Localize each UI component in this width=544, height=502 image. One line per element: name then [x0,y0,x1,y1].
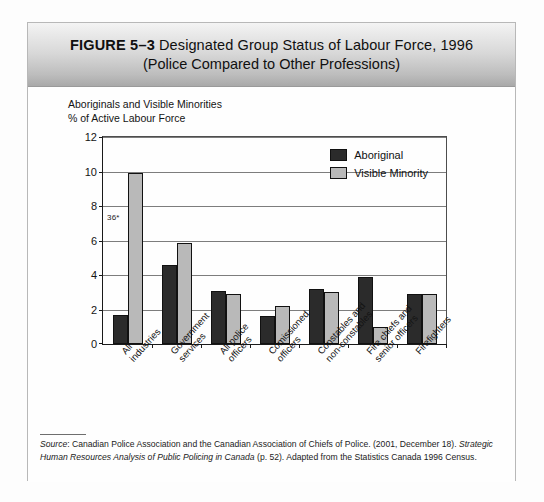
y-axis-caption: Aboriginals and Visible Minorities % of … [68,97,222,125]
x-axis-labels: AllindustriesGovernmentservicesAll polic… [102,345,447,435]
figure-box: FIGURE 5–3 Designated Group Status of La… [27,22,516,481]
figure-title-line-2: (Police Compared to Other Professions) [143,55,400,73]
bar-aboriginal [260,316,275,344]
chart-container: Aboriginals and Visible Minorities % of … [28,87,515,482]
source-text-1: : Canadian Police Association and the Ca… [67,439,459,449]
y-tick-label-0: 0 [91,338,97,350]
legend-item-visible-minority: Visible Minority [330,167,428,179]
y-tick-label-10: 10 [85,166,97,178]
bar-group [201,137,250,344]
figure-title-line-1: FIGURE 5–3 Designated Group Status of La… [70,36,473,54]
source-divider [40,434,86,435]
bar-group [152,137,201,344]
figure-page: FIGURE 5–3 Designated Group Status of La… [0,0,544,502]
bar-aboriginal [113,315,128,344]
y-tick-label-8: 8 [91,200,97,212]
y-tick-label-6: 6 [91,235,97,247]
legend-swatch-visible-minority [330,167,347,179]
figure-header-band: FIGURE 5–3 Designated Group Status of La… [28,23,515,87]
y-tick-label-12: 12 [85,131,97,143]
bar-aboriginal [211,291,226,344]
bar-group [103,137,152,344]
y-tick-label-4: 4 [91,269,97,281]
figure-number: FIGURE 5–3 [70,37,155,53]
bar-group [250,137,299,344]
source-text-2: (p. 52). Adapted from the Statistics Can… [255,452,477,462]
figure-title-main: Designated Group Status of Labour Force,… [159,37,473,53]
bar-visible-minority [128,173,143,344]
bar-aboriginal [162,265,177,344]
legend-swatch-aboriginal [330,149,347,161]
source-note: Source: Canadian Police Association and … [40,438,503,464]
y-axis-caption-line-1: Aboriginals and Visible Minorities [68,97,222,111]
source-label: Source [40,439,67,449]
legend-label-visible-minority: Visible Minority [354,167,428,179]
y-axis-caption-line-2: % of Active Labour Force [68,111,222,125]
y-tick-label-2: 2 [91,304,97,316]
legend-label-aboriginal: Aboriginal [354,149,403,161]
legend-item-aboriginal: Aboriginal [330,149,428,161]
chart-legend: Aboriginal Visible Minority [330,149,428,179]
annotation-36: 36* [107,213,120,222]
